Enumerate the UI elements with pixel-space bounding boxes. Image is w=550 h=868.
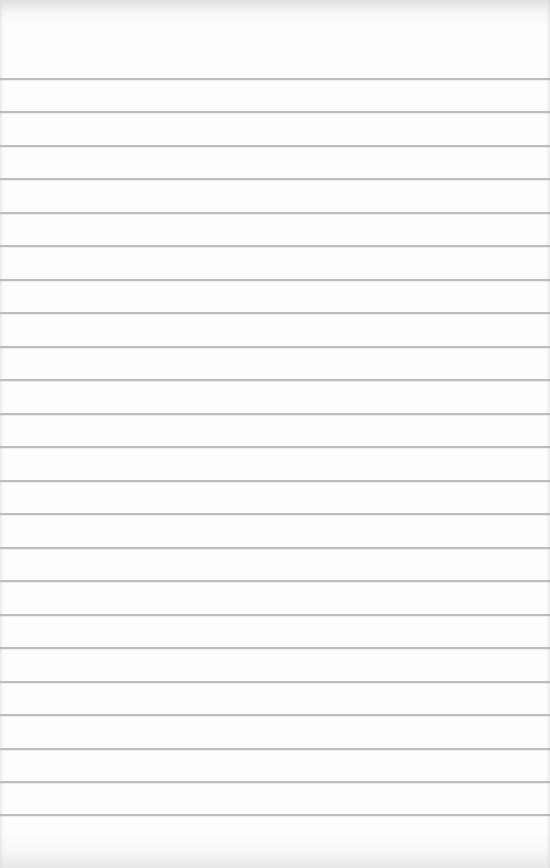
ruled-line bbox=[0, 379, 550, 381]
ruled-line bbox=[0, 480, 550, 482]
ruled-line bbox=[0, 245, 550, 247]
ruled-line bbox=[0, 580, 550, 582]
paper-bottom-edge-texture bbox=[0, 828, 550, 868]
ruled-line bbox=[0, 547, 550, 549]
paper-right-edge-shadow bbox=[546, 0, 550, 868]
ruled-line bbox=[0, 346, 550, 348]
ruled-line bbox=[0, 614, 550, 616]
ruled-line bbox=[0, 312, 550, 314]
ruled-line bbox=[0, 513, 550, 515]
ruled-line bbox=[0, 681, 550, 683]
ruled-line bbox=[0, 714, 550, 716]
ruled-line bbox=[0, 78, 550, 80]
ruled-line bbox=[0, 413, 550, 415]
ruled-line bbox=[0, 279, 550, 281]
ruled-line bbox=[0, 781, 550, 783]
paper-left-edge-shadow bbox=[0, 0, 4, 868]
ruled-line bbox=[0, 178, 550, 180]
ruled-line bbox=[0, 145, 550, 147]
ruled-line bbox=[0, 212, 550, 214]
ruled-line bbox=[0, 647, 550, 649]
ruled-line bbox=[0, 748, 550, 750]
lined-paper-sheet bbox=[0, 0, 550, 868]
paper-top-edge-texture bbox=[0, 0, 550, 26]
ruled-line bbox=[0, 814, 550, 816]
ruled-line bbox=[0, 446, 550, 448]
ruled-line bbox=[0, 111, 550, 113]
